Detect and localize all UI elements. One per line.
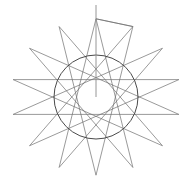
figure-canvas [0, 0, 190, 191]
geometric-figure-svg [0, 0, 190, 191]
